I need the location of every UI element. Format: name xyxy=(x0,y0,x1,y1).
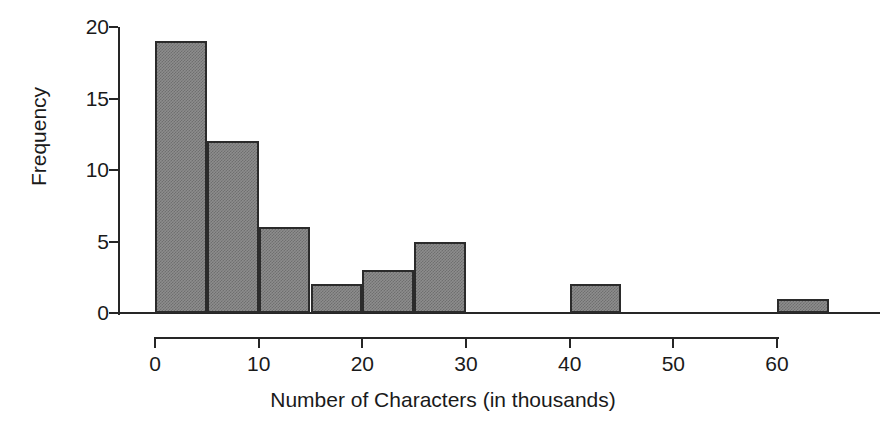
y-tick-mark xyxy=(109,241,118,243)
x-axis-title: Number of Characters (in thousands) xyxy=(0,388,886,412)
x-tick-label: 0 xyxy=(125,352,185,376)
histogram-bar xyxy=(155,41,207,313)
x-tick-label: 60 xyxy=(747,352,807,376)
y-tick-label-text: 0 xyxy=(67,302,109,323)
x-tick-label: 30 xyxy=(436,352,496,376)
plot-area: 05101520 0102030405060 Frequency Number … xyxy=(0,0,886,438)
y-tick-label-text: 5 xyxy=(67,231,109,252)
y-tick-mark xyxy=(109,312,118,314)
y-tick-mark xyxy=(109,98,118,100)
histogram-bar xyxy=(414,242,466,314)
histogram-bar xyxy=(777,299,829,313)
histogram-bar xyxy=(259,227,311,313)
x-tick-label: 40 xyxy=(540,352,600,376)
y-tick-label-text: 15 xyxy=(67,88,109,109)
y-tick-label: 20 xyxy=(52,16,109,37)
x-tick-label: 10 xyxy=(229,352,289,376)
x-tick-label: 50 xyxy=(643,352,703,376)
histogram-bar xyxy=(311,284,363,313)
y-tick-label-text: 10 xyxy=(67,159,109,180)
histogram-bar xyxy=(570,284,622,313)
y-axis-spine xyxy=(118,27,120,315)
histogram-bar xyxy=(207,141,259,313)
histogram-bar xyxy=(362,270,414,313)
y-tick-label: 15 xyxy=(52,88,109,109)
histogram-figure: 05101520 0102030405060 Frequency Number … xyxy=(0,0,886,438)
y-axis-title: Frequency xyxy=(28,37,49,237)
y-tick-label: 5 xyxy=(52,231,109,252)
x-tick-label: 20 xyxy=(332,352,392,376)
x-axis-scale-line xyxy=(155,337,779,339)
y-tick-mark xyxy=(109,169,118,171)
y-tick-label-text: 20 xyxy=(67,16,109,37)
y-tick-mark xyxy=(109,26,118,28)
y-tick-label: 0 xyxy=(52,302,109,323)
y-tick-label: 10 xyxy=(52,159,109,180)
